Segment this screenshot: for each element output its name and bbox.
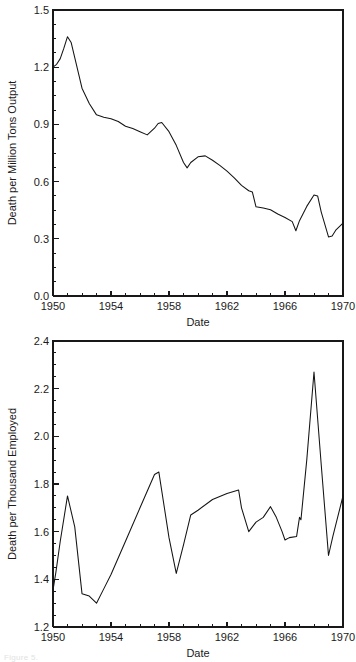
chart-panel-deaths-per-thousand-employed: 1.21.41.61.82.02.22.41950195419581962196… [0, 331, 356, 662]
y-tick-label: 1.4 [34, 573, 49, 585]
x-tick-label: 1950 [41, 300, 65, 312]
x-tick-label: 1954 [99, 300, 123, 312]
y-tick-label: 0.9 [34, 118, 49, 130]
x-tick-label: 1958 [157, 631, 181, 643]
chart-svg-deaths-per-thousand-employed: 1.21.41.61.82.02.22.41950195419581962196… [0, 331, 356, 662]
x-tick-label: 1958 [157, 300, 181, 312]
x-tick-label: 1950 [41, 631, 65, 643]
y-tick-label: 1.2 [34, 61, 49, 73]
data-series-line [53, 372, 343, 603]
x-axis-title: Date [186, 647, 209, 659]
y-tick-label: 0.6 [34, 176, 49, 188]
x-tick-label: 1962 [215, 631, 239, 643]
x-tick-label: 1966 [273, 631, 297, 643]
plot-frame [53, 10, 343, 296]
x-tick-label: 1966 [273, 300, 297, 312]
plot-frame [53, 341, 343, 627]
y-tick-label: 2.4 [34, 335, 49, 347]
y-axis-title: Death per Thousand Employed [6, 408, 18, 560]
y-tick-label: 1.8 [34, 478, 49, 490]
data-series-line [53, 37, 343, 237]
y-tick-label: 0.3 [34, 233, 49, 245]
chart-panel-deaths-per-million-tons: 0.00.30.60.91.21.51950195419581962196619… [0, 0, 356, 331]
x-axis-title: Date [186, 316, 209, 328]
x-tick-label: 1970 [331, 631, 355, 643]
y-tick-label: 2.0 [34, 430, 49, 442]
figure-caption-fragment: Figure 5. [4, 653, 38, 662]
chart-svg-deaths-per-million-tons: 0.00.30.60.91.21.51950195419581962196619… [0, 0, 356, 331]
figure-container: 0.00.30.60.91.21.51950195419581962196619… [0, 0, 356, 662]
y-tick-label: 2.2 [34, 383, 49, 395]
y-tick-label: 1.5 [34, 4, 49, 16]
x-tick-label: 1970 [331, 300, 355, 312]
y-tick-label: 1.6 [34, 526, 49, 538]
x-tick-label: 1954 [99, 631, 123, 643]
x-tick-label: 1962 [215, 300, 239, 312]
y-axis-title: Death per Million Tons Output [6, 81, 18, 226]
